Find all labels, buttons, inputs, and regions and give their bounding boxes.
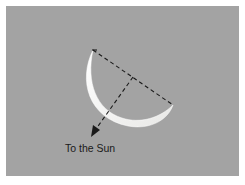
to-the-sun-label: To the Sun [65, 142, 115, 154]
arrowhead-icon [91, 125, 100, 137]
crescent-shape [86, 50, 173, 127]
crescent-diagram [0, 0, 245, 185]
